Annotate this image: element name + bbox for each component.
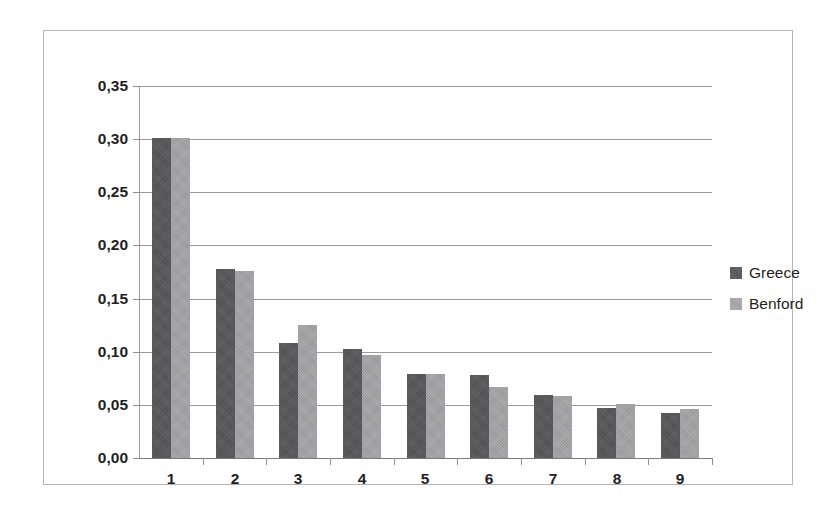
bar-benford-8[interactable] (616, 404, 635, 458)
value-axis-line (139, 86, 140, 459)
bar-benford-6[interactable] (489, 387, 508, 458)
x-tick-label: 1 (151, 471, 191, 487)
bar-greece-9[interactable] (661, 413, 680, 458)
gridline (139, 192, 712, 193)
legend-label-benford: Benford (749, 296, 803, 312)
bar-greece-2[interactable] (216, 269, 235, 458)
x-tick-mark (521, 458, 522, 465)
x-tick-label: 9 (660, 471, 700, 487)
category-axis-line (139, 458, 713, 459)
bar-benford-4[interactable] (362, 355, 381, 458)
legend-label-greece: Greece (749, 265, 800, 281)
y-tick-mark (133, 405, 140, 406)
y-tick-mark (133, 352, 140, 353)
gridline (139, 139, 712, 140)
y-tick-label: 0,00 (84, 450, 128, 466)
x-tick-label: 8 (597, 471, 637, 487)
bar-greece-8[interactable] (597, 408, 616, 458)
x-tick-mark (330, 458, 331, 465)
x-tick-label: 7 (533, 471, 573, 487)
legend-entry-benford[interactable]: Benford (730, 288, 830, 319)
x-tick-mark (457, 458, 458, 465)
bar-benford-5[interactable] (426, 374, 445, 458)
bar-greece-6[interactable] (470, 375, 489, 458)
bar-benford-7[interactable] (553, 396, 572, 458)
y-tick-label: 0,20 (84, 237, 128, 253)
legend-entry-greece[interactable]: Greece (730, 257, 830, 288)
x-tick-mark (203, 458, 204, 465)
bar-benford-9[interactable] (680, 409, 699, 458)
bar-benford-3[interactable] (298, 325, 317, 458)
gridline (139, 245, 712, 246)
y-tick-mark (133, 86, 140, 87)
y-tick-label: 0,35 (84, 78, 128, 94)
chart-page: 0,000,050,100,150,200,250,300,35 1234567… (0, 0, 837, 513)
bar-greece-4[interactable] (343, 349, 362, 458)
bar-greece-3[interactable] (279, 343, 298, 458)
x-tick-mark (712, 458, 713, 465)
chart-legend: Greece Benford (730, 257, 830, 319)
x-tick-label: 4 (342, 471, 382, 487)
y-tick-mark (133, 245, 140, 246)
x-tick-mark (266, 458, 267, 465)
chart-frame: 0,000,050,100,150,200,250,300,35 1234567… (43, 30, 793, 485)
y-tick-label: 0,10 (84, 344, 128, 360)
legend-swatch-greece-icon (730, 267, 742, 279)
gridline (139, 86, 712, 87)
y-tick-label: 0,15 (84, 291, 128, 307)
x-tick-label: 2 (215, 471, 255, 487)
legend-swatch-benford-icon (730, 298, 742, 310)
bar-greece-7[interactable] (534, 395, 553, 458)
bar-greece-1[interactable] (152, 138, 171, 458)
x-tick-mark (648, 458, 649, 465)
x-tick-label: 3 (278, 471, 318, 487)
bar-benford-1[interactable] (171, 138, 190, 458)
y-tick-mark (133, 299, 140, 300)
bar-greece-5[interactable] (407, 374, 426, 458)
y-tick-label: 0,05 (84, 397, 128, 413)
y-tick-label: 0,30 (84, 131, 128, 147)
y-axis-labels: 0,000,050,100,150,200,250,300,35 (82, 31, 128, 486)
x-tick-mark (585, 458, 586, 465)
y-tick-mark (133, 139, 140, 140)
x-tick-label: 6 (469, 471, 509, 487)
y-tick-mark (133, 458, 140, 459)
y-tick-mark (133, 192, 140, 193)
plot-area (139, 86, 712, 458)
x-tick-label: 5 (405, 471, 445, 487)
x-tick-mark (394, 458, 395, 465)
y-tick-label: 0,25 (84, 184, 128, 200)
bar-benford-2[interactable] (235, 271, 254, 458)
